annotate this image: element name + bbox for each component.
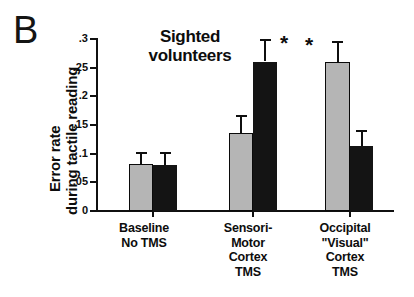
- y-tick-label: .1: [79, 147, 88, 159]
- error-bar-cap: [160, 152, 171, 154]
- error-bar-cap: [236, 115, 247, 117]
- bar-baseline-no-tms-black: [153, 165, 177, 211]
- error-bar-stem: [337, 41, 339, 61]
- y-tick-mark: [90, 95, 96, 97]
- plot-area: 0.05.1.15.2.25.3 **: [96, 38, 396, 210]
- y-tick-mark: [90, 181, 96, 183]
- error-bar-stem: [361, 130, 363, 146]
- y-tick-mark: [90, 38, 96, 40]
- x-tick-mark: [349, 212, 351, 217]
- figure-panel-b: B Error rate during tactile reading Sigh…: [0, 0, 414, 297]
- x-axis-group-label-line: Sensori-: [224, 221, 272, 235]
- y-tick-label: .15: [73, 118, 88, 130]
- significance-asterisk: *: [280, 32, 288, 53]
- x-axis-group-label-line: TMS: [235, 265, 261, 279]
- y-tick-mark: [90, 124, 96, 126]
- x-axis-group-label-line: Cortex: [326, 250, 364, 264]
- x-axis-group-label: BaselineNo TMS: [102, 221, 186, 250]
- y-tick-label: 0: [82, 204, 88, 216]
- y-axis-line: [96, 38, 98, 211]
- x-axis-group-label: Sensori-MotorCortexTMS: [206, 221, 290, 279]
- y-tick-label: .25: [73, 61, 88, 73]
- bar-sensori-motor-cortex-tms-black: [253, 62, 277, 211]
- error-bar-stem: [264, 39, 266, 62]
- x-axis-group-label-line: Baseline: [119, 221, 169, 235]
- x-axis-group-label-line: TMS: [332, 265, 358, 279]
- y-axis-title-line-1: Error rate: [46, 126, 63, 192]
- y-tick-label: .2: [79, 89, 88, 101]
- error-bar-cap: [136, 152, 147, 154]
- y-tick-label: .05: [73, 175, 88, 187]
- y-tick-mark: [90, 67, 96, 69]
- bar-occipital-visual-cortex-tms-gray: [325, 62, 350, 211]
- significance-asterisk: *: [305, 34, 313, 55]
- panel-letter: B: [13, 11, 38, 49]
- y-axis-title-line-2: during tactile reading: [63, 67, 80, 215]
- x-axis-group-label: Occipital"Visual"CortexTMS: [300, 221, 390, 279]
- error-bar-stem: [164, 152, 166, 166]
- y-tick-label: .3: [79, 32, 88, 44]
- error-bar-cap: [260, 39, 271, 41]
- y-tick-mark: [90, 153, 96, 155]
- x-axis-group-label-line: Cortex: [229, 250, 267, 264]
- x-tick-mark: [252, 212, 254, 217]
- y-tick-mark: [90, 210, 96, 212]
- bar-baseline-no-tms-gray: [129, 164, 153, 211]
- x-axis-group-label-line: Occipital: [320, 221, 371, 235]
- bar-occipital-visual-cortex-tms-black: [350, 146, 373, 211]
- error-bar-cap: [356, 130, 367, 132]
- error-bar-cap: [332, 41, 343, 43]
- x-axis-group-label-line: No TMS: [121, 236, 166, 250]
- x-axis-group-label-line: "Visual": [322, 236, 369, 250]
- x-tick-mark: [152, 212, 154, 217]
- bar-sensori-motor-cortex-tms-gray: [229, 133, 253, 211]
- x-axis-group-label-line: Motor: [231, 236, 265, 250]
- error-bar-stem: [240, 115, 242, 132]
